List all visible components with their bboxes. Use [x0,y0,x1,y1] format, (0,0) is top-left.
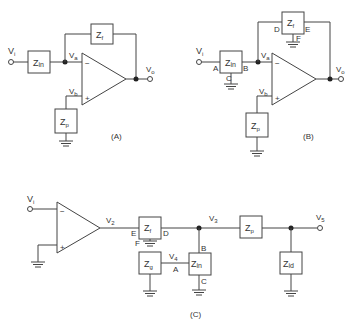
svg-text:Vb: Vb [69,87,78,97]
zp-box-c [240,216,262,238]
zg-box-c [139,252,161,274]
svg-text:−: − [85,59,90,68]
svg-text:Vi: Vi [8,46,15,57]
zp-box-a [55,109,77,133]
output-terminal-b [339,77,344,82]
svg-text:Va: Va [69,51,78,61]
svg-text:C: C [201,277,207,286]
zp-box-b [246,113,268,137]
svg-text:Va: Va [261,51,270,61]
svg-text:V2: V2 [106,216,115,226]
input-terminal-c [28,207,33,212]
input-terminal-a [9,60,14,65]
diagram-c: Vi V2 V3 V4 V5 Zf Zg Zin Zp Zid A B C D … [27,194,325,319]
ground-icon [192,290,206,295]
svg-text:V3: V3 [209,214,218,224]
svg-text:F: F [135,239,140,248]
caption-c: (C) [190,310,201,319]
output-terminal-c [318,226,323,231]
svg-text:+: + [85,94,90,103]
svg-text:V5: V5 [316,213,325,223]
svg-text:E: E [131,229,136,238]
svg-text:Vb: Vb [259,87,268,97]
ground-icon [143,291,157,296]
circuit-diagrams: Vi Zin Zf Zp Va Vb Vo − + (A) [0,0,356,324]
svg-text:A: A [213,64,219,73]
svg-text:F: F [296,34,301,43]
svg-text:−: − [275,59,280,68]
svg-text:D: D [274,25,280,34]
svg-text:−: − [60,207,65,216]
ground-icon [284,291,298,296]
svg-text:Vo: Vo [336,65,345,75]
input-terminal-b [197,60,202,65]
svg-text:Vo: Vo [146,65,155,75]
node-vo-a [134,77,139,82]
svg-text:D: D [163,229,169,238]
output-terminal-a [148,77,153,82]
caption-b: (B) [303,132,314,141]
svg-text:B: B [243,64,248,73]
ground-icon [250,151,264,156]
node-vo-b [328,77,333,82]
svg-text:E: E [305,25,310,34]
ground-icon [143,241,157,246]
caption-a: (A) [111,132,122,141]
diagram-b: Vi Zin Zf Zp Va Vb Vo A B C D E F − + (B… [196,12,345,156]
diagram-a: Vi Zin Zf Zp Va Vb Vo − + (A) [8,24,155,146]
svg-text:Vi: Vi [196,46,203,57]
svg-text:+: + [275,94,280,103]
ground-icon [224,84,238,89]
ground-icon [59,141,73,146]
svg-text:B: B [201,244,206,253]
ground-icon [31,262,45,267]
svg-text:Vi: Vi [27,194,34,205]
svg-text:C: C [226,74,232,83]
svg-text:+: + [60,243,65,252]
svg-text:V4: V4 [169,252,178,262]
svg-text:A: A [173,265,179,274]
zf-box-a [91,24,113,44]
